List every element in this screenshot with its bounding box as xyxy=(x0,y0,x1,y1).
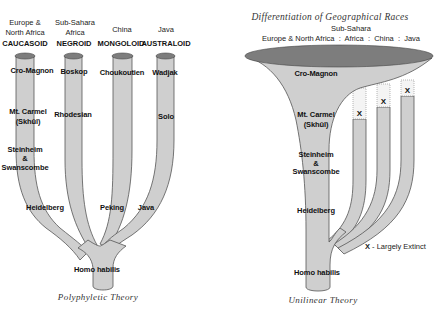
region-europe-line1: Europe & xyxy=(9,18,40,27)
rim-negroid xyxy=(64,53,83,59)
rim-caucasoid xyxy=(15,53,35,59)
label-skhul: (Skhūl) xyxy=(304,120,329,129)
race-australoid: AUSTRALOID xyxy=(141,39,191,48)
label-heidelberg: Heidelberg xyxy=(26,203,64,212)
evolution-diagram: Europe & North Africa Sub-Sahara Africa … xyxy=(0,0,445,313)
extinct-marker-africa: X xyxy=(357,109,363,118)
branch-negroid xyxy=(65,56,97,250)
label-boskop: Boskop xyxy=(61,67,88,76)
region-java: Java xyxy=(158,25,175,34)
label-rhodesian: Rhodesian xyxy=(54,110,92,119)
label-heidelberg: Heidelberg xyxy=(297,206,335,215)
caption-polyphyletic: Polyphyletic Theory xyxy=(57,292,138,302)
label-homo-habilis: Homo habilis xyxy=(74,265,120,274)
polyphyletic-diagram: Europe & North Africa Sub-Sahara Africa … xyxy=(2,18,192,302)
label-swanscombe: Swanscombe xyxy=(293,167,340,176)
label-steinheim: Steinheim xyxy=(8,145,43,154)
header-regions: Europe & North Africa : Africa : China :… xyxy=(262,34,421,43)
label-java: Java xyxy=(138,203,155,212)
legend-text: - Largely Extinct xyxy=(370,242,427,251)
label-ampersand: & xyxy=(22,154,28,163)
region-china: China xyxy=(112,25,132,34)
header-sub-sahara: Sub-Sahara xyxy=(331,24,372,33)
label-peking: Peking xyxy=(100,203,125,212)
extinct-marker-china: X xyxy=(381,97,387,106)
label-cro-magnon: Cro-Magnon xyxy=(294,69,338,78)
label-solo: Solo xyxy=(158,112,174,121)
label-swanscombe: Swanscombe xyxy=(2,163,49,172)
funnel-rim xyxy=(245,45,433,67)
extinct-marker-java: X xyxy=(405,86,411,95)
label-wadjak: Wadjak xyxy=(152,68,178,77)
label-homo-habilis: Homo habilis xyxy=(294,268,340,277)
caption-unilinear: Unilinear Theory xyxy=(288,295,357,305)
rim-mongoloid xyxy=(112,53,133,59)
legend-extinct: X - Largely Extinct xyxy=(365,242,427,251)
label-skhul: (Skhūl) xyxy=(16,117,41,126)
region-africa-line2: Africa xyxy=(65,28,85,37)
label-choukoutien: Choukoutien xyxy=(100,68,145,77)
rim-australoid xyxy=(156,53,175,59)
label-mt-carmel: Mt. Carmel xyxy=(9,107,46,116)
race-caucasoid: CAUCASOID xyxy=(2,39,48,48)
label-mt-carmel: Mt. Carmel xyxy=(297,110,334,119)
unilinear-title: Differentiation of Geographical Races xyxy=(250,12,408,22)
region-europe-line2: North Africa xyxy=(5,28,45,37)
label-cro-magnon: Cro-Magnon xyxy=(10,66,54,75)
label-steinheim: Steinheim xyxy=(299,150,334,159)
race-mongoloid: MONGOLOID xyxy=(97,39,145,48)
unilinear-diagram: Differentiation of Geographical Races Su… xyxy=(245,12,433,305)
branch-mongoloid xyxy=(100,56,132,248)
race-negroid: NEGROID xyxy=(56,39,92,48)
region-africa-line1: Sub-Sahara xyxy=(55,18,96,27)
